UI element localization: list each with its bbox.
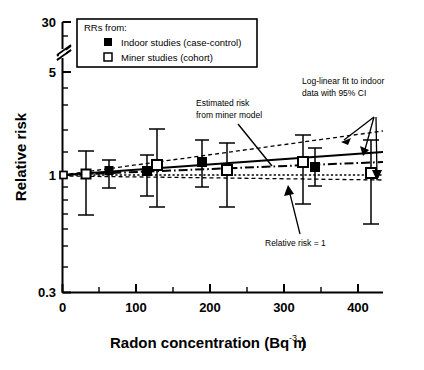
x-axis-title-superscript: -3 [289,333,297,343]
legend-title: RRs from: [84,22,127,33]
xtick-label-0: 0 [59,300,66,315]
radon-relative-risk-chart: 30 5 1 0.3 0 100 200 300 400 Relative ri… [0,0,424,370]
xtick-label-200: 200 [199,300,221,315]
annotation-reference-line-label: Relative risk = 1 [265,238,326,248]
y-axis-title: Relative risk [12,112,29,201]
legend-label-miner: Miner studies (cohort) [121,52,213,63]
legend-marker-indoor-filled-square [104,38,112,46]
xtick-label-400: 400 [347,300,369,315]
x-axis-title: Radon concentration (Bq m -3 ) [110,333,307,351]
annotation-loglinear-line2: data with 95% CI [302,88,366,98]
legend-label-indoor: Indoor studies (case-control) [121,37,241,48]
annotation-miner-model-line2: from miner model [196,110,262,120]
ytick-label-30: 30 [42,15,56,30]
legend: RRs from: Indoor studies (case-control) … [77,19,257,67]
xtick-label-300: 300 [273,300,295,315]
ytick-label-5: 5 [49,65,56,80]
x-axis-title-close: ) [301,334,306,351]
ytick-label-03: 0.3 [38,285,56,300]
annotation-miner-model-line1: Estimated risk [196,98,250,108]
x-axis-title-main: Radon concentration (Bq m [110,334,307,351]
data-point-miner-0 [60,172,67,179]
ytick-label-1: 1 [49,168,56,183]
xtick-label-100: 100 [125,300,147,315]
annotation-loglinear-line1: Log-linear fit to indoor [302,76,384,86]
legend-marker-miner-open-square [104,53,112,61]
